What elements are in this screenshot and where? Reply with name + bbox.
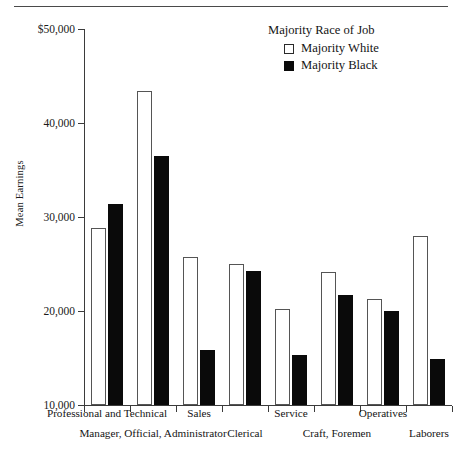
bar-majority-white xyxy=(367,299,383,405)
legend-item-majority-white[interactable]: Majority White xyxy=(284,40,379,57)
y-axis-tick-label: 30,000 xyxy=(0,211,75,223)
x-axis-category-label: Laborers xyxy=(409,427,449,440)
bar-majority-white xyxy=(137,91,153,405)
x-axis-tick xyxy=(222,406,223,412)
y-axis-title: Mean Earnings xyxy=(14,149,25,239)
y-axis-line xyxy=(84,29,85,406)
chart-legend: Majority Race of Job Majority White Majo… xyxy=(268,22,379,74)
y-axis-tick xyxy=(78,217,84,218)
x-axis-tick xyxy=(268,406,269,412)
bar-majority-white xyxy=(91,228,107,405)
top-divider-rule xyxy=(14,6,448,7)
legend-title: Majority Race of Job xyxy=(268,22,379,39)
bar-majority-white xyxy=(321,272,337,405)
chart-figure: Mean Earnings 10,00020,00030,00040,000$5… xyxy=(0,0,462,461)
x-axis-category-label: Professional and Technical xyxy=(47,407,167,420)
y-axis-tick xyxy=(78,311,84,312)
bar-majority-white xyxy=(413,236,429,405)
bar-majority-black xyxy=(292,355,308,405)
bar-majority-black xyxy=(338,295,354,405)
x-axis-tick xyxy=(314,406,315,412)
y-axis-tick-label: 20,000 xyxy=(0,305,75,317)
white-square-icon xyxy=(284,44,294,54)
bar-majority-black xyxy=(430,359,446,405)
x-axis-category-label: Clerical xyxy=(227,427,262,440)
bar-majority-white xyxy=(183,257,199,405)
bar-majority-black xyxy=(246,271,262,405)
x-axis-tick xyxy=(176,406,177,412)
bar-majority-white xyxy=(229,264,245,405)
black-square-icon xyxy=(284,61,294,71)
x-axis-category-label: Operatives xyxy=(359,407,407,420)
y-axis-tick xyxy=(78,123,84,124)
bar-majority-white xyxy=(275,309,291,405)
y-axis-tick xyxy=(78,29,84,30)
legend-item-label: Majority Black xyxy=(301,57,378,74)
legend-item-label: Majority White xyxy=(301,40,379,57)
x-axis-tick xyxy=(452,406,453,412)
x-axis-category-label: Service xyxy=(274,407,308,420)
bar-majority-black xyxy=(200,350,216,405)
bar-majority-black xyxy=(384,311,400,405)
x-axis-category-label: Craft, Foremen xyxy=(303,427,371,440)
legend-item-majority-black[interactable]: Majority Black xyxy=(284,57,379,74)
x-axis-category-label: Manager, Official, Administrator xyxy=(79,427,226,440)
y-axis-tick-label: 40,000 xyxy=(0,117,75,129)
x-axis-category-label: Sales xyxy=(187,407,211,420)
y-axis-tick-label: $50,000 xyxy=(0,23,75,35)
bar-majority-black xyxy=(154,156,170,405)
bar-majority-black xyxy=(108,204,124,405)
